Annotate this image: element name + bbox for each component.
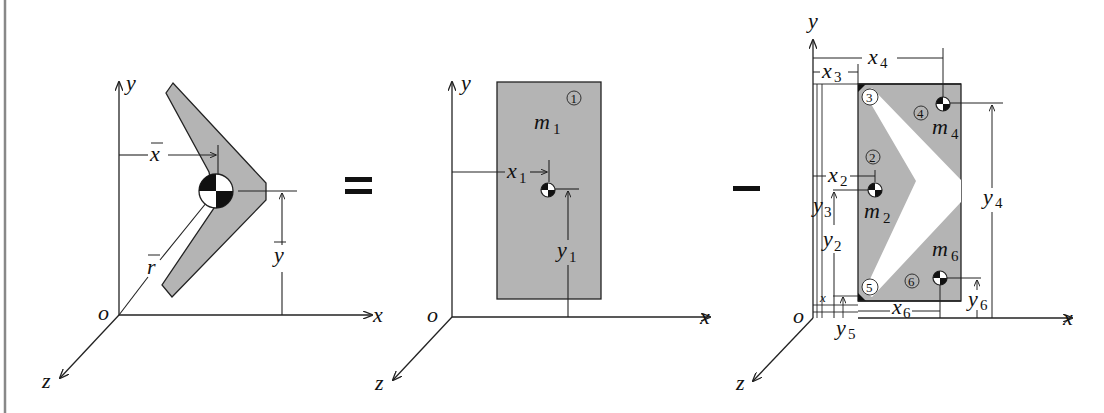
svg-text:4: 4 (880, 55, 888, 71)
svg-text:6: 6 (951, 248, 959, 264)
centroid-icon (541, 183, 555, 197)
part-number-5: 5 (862, 279, 878, 295)
svg-text:4: 4 (995, 195, 1003, 211)
m2-label: m (864, 198, 880, 223)
y-axis-label: y (806, 8, 818, 33)
y5-label: y (834, 315, 846, 340)
svg-text:4: 4 (951, 126, 959, 142)
x5-label: x (819, 290, 826, 305)
minus-operator (733, 186, 760, 191)
z-axis (393, 317, 452, 380)
svg-text:3: 3 (824, 204, 832, 220)
m6-label: m (932, 236, 948, 261)
part-number-3: 3 (862, 89, 878, 105)
mass-label: m (534, 109, 550, 134)
z-axis-label: z (41, 368, 51, 393)
svg-text:2: 2 (834, 238, 842, 254)
equals-operator (345, 177, 372, 194)
y3-label: y (811, 192, 823, 217)
y1-label: y (555, 237, 567, 262)
y-axis-label: y (459, 70, 471, 95)
z-axis-label: z (735, 370, 745, 395)
part-number-1: 1 (571, 91, 578, 106)
m4-label: m (932, 114, 948, 139)
x2-label: x (827, 162, 838, 187)
x6-label: x (891, 294, 902, 319)
panel-original: y x z o x y r (41, 70, 383, 393)
x-axis-label: x (1062, 305, 1073, 330)
svg-text:1: 1 (519, 170, 527, 186)
y-axis-label: y (124, 70, 136, 95)
svg-text:3: 3 (866, 90, 873, 105)
x3-label: x (821, 58, 832, 83)
svg-text:6: 6 (980, 297, 988, 313)
x-axis-label: x (699, 304, 710, 329)
svg-text:1: 1 (553, 121, 561, 137)
origin-label: o (793, 303, 804, 328)
z-axis-label: z (374, 370, 384, 395)
origin-label: o (98, 300, 109, 325)
svg-text:1: 1 (569, 249, 577, 265)
x1-label: x (506, 158, 517, 183)
y6-label: y (966, 286, 978, 311)
z-axis (753, 318, 813, 381)
y2-label: y (821, 226, 833, 251)
z-axis (60, 315, 119, 378)
centroid-icon (933, 271, 947, 285)
svg-text:2: 2 (840, 173, 848, 189)
centroid-icon (936, 97, 950, 111)
svg-text:2: 2 (869, 150, 876, 165)
diagram-canvas: y x z o x y r (0, 0, 1104, 413)
origin-label: o (427, 302, 438, 327)
figure: y x z o x y r (0, 0, 1104, 413)
rbar-label: r (147, 254, 156, 279)
x-axis-label: x (372, 302, 383, 327)
panel-removed-parts: y x z o x 4 x 3 x 2 y 2 y 3 (735, 8, 1073, 395)
ybar-label: y (272, 242, 284, 267)
xbar-label: x (149, 141, 160, 166)
svg-text:3: 3 (834, 69, 842, 85)
svg-text:4: 4 (917, 106, 924, 121)
svg-text:5: 5 (866, 280, 873, 295)
svg-text:6: 6 (903, 305, 911, 321)
svg-text:6: 6 (908, 274, 915, 289)
panel-rectangle: y x z o 1 m 1 x 1 y 1 (374, 70, 710, 395)
centroid-icon (199, 174, 233, 208)
centroid-icon (868, 183, 882, 197)
x4-label: x (867, 44, 878, 69)
y4-label: y (981, 184, 993, 209)
svg-text:2: 2 (883, 210, 891, 226)
svg-text:5: 5 (848, 326, 856, 342)
